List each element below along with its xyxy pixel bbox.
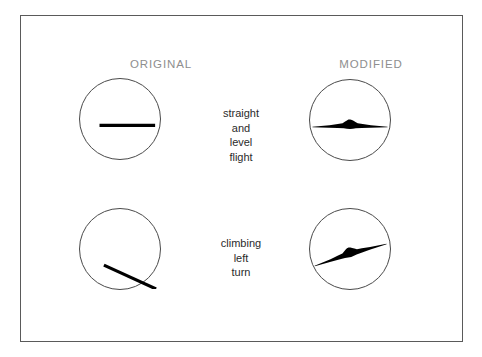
figure-root: ORIGINAL MODIFIED straight and level fli…: [0, 0, 482, 357]
caption-line: straight: [196, 106, 286, 121]
flying-wing-aircraft-banked-icon: [310, 209, 390, 289]
diagonal-line-symbol: [80, 209, 160, 289]
scope-modified-level: [309, 79, 391, 161]
caption-line: left: [196, 251, 286, 266]
column-heading-modified: MODIFIED: [291, 58, 451, 70]
horizontal-line-symbol: [80, 79, 160, 159]
caption-line: and: [196, 121, 286, 136]
caption-line: turn: [196, 265, 286, 280]
flying-wing-aircraft-level-icon: [310, 80, 390, 160]
figure-border-frame: ORIGINAL MODIFIED: [20, 15, 463, 342]
column-heading-original: ORIGINAL: [81, 58, 241, 70]
caption-climbing-left-turn: climbing left turn: [196, 236, 286, 280]
caption-straight-and-level-flight: straight and level flight: [196, 106, 286, 164]
scope-original-level: [79, 78, 161, 160]
scope-original-banked: [79, 208, 161, 290]
caption-line: level: [196, 135, 286, 150]
caption-line: climbing: [196, 236, 286, 251]
caption-line: flight: [196, 150, 286, 165]
scope-modified-banked: [309, 208, 391, 290]
